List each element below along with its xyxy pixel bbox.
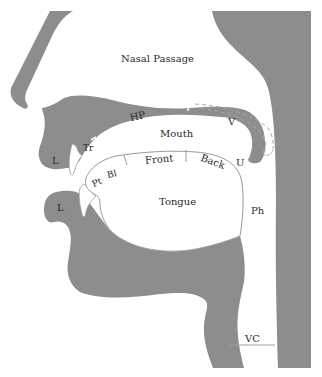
vocal-tract-diagram: Nasal Passage HP V Mouth Tr L U Pt Bl Fr… <box>0 0 322 377</box>
label-nasal-passage: Nasal Passage <box>121 53 194 64</box>
label-uvula: U <box>236 157 244 168</box>
label-teeth-ridge: Tr <box>83 143 94 153</box>
label-tongue: Tongue <box>159 196 196 207</box>
label-hard-palate: HP <box>129 109 147 123</box>
label-pharynx: Ph <box>251 205 265 216</box>
label-vocal-cords: VC <box>244 333 260 344</box>
label-upper-lip: L <box>52 155 59 166</box>
label-lower-lip: L <box>57 202 64 213</box>
label-velum: V <box>227 116 236 127</box>
label-mouth: Mouth <box>160 128 194 139</box>
nose <box>11 11 73 109</box>
palate-velum-boundary <box>188 104 189 111</box>
